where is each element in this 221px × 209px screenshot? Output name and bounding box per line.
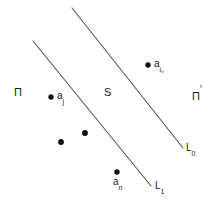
point-label-a-n: an <box>113 177 122 189</box>
region-left-text: Π <box>14 86 22 98</box>
line-label-L0: L0 <box>186 143 195 155</box>
point-a-n-base: a <box>113 176 119 187</box>
point-a-j <box>48 94 53 99</box>
line-L1-base: L <box>155 180 161 191</box>
line-L1-sub: 1 <box>161 188 165 195</box>
line-L0 <box>72 8 183 148</box>
region-label-left: Π <box>14 87 22 98</box>
line-L0-base: L <box>186 142 192 153</box>
region-right-text: Π <box>192 90 200 102</box>
point-dot-2 <box>58 139 64 145</box>
point-a-i0-sub: i₀ <box>160 66 164 73</box>
point-a-j-base: a <box>57 90 63 101</box>
line-L1 <box>33 41 151 186</box>
region-label-middle: S <box>104 87 111 98</box>
region-label-right: Π′ <box>192 87 202 102</box>
region-right-prime: ′ <box>200 84 202 95</box>
figure-container: Π S Π′ ai₀ aj an L0 L1 <box>0 0 221 209</box>
point-a-j-sub: j <box>63 98 65 105</box>
point-label-a-j: aj <box>57 91 64 103</box>
point-a-n <box>114 169 119 174</box>
point-a-n-sub: n <box>119 184 123 191</box>
point-dot-1 <box>82 130 88 136</box>
region-middle-text: S <box>104 86 111 98</box>
line-L0-sub: 0 <box>192 150 196 157</box>
point-a-i0-base: a <box>154 58 160 69</box>
point-a-i0 <box>145 62 150 67</box>
point-label-a-i0: ai₀ <box>154 59 164 71</box>
diagram-canvas <box>0 0 221 209</box>
line-label-L1: L1 <box>155 181 164 193</box>
